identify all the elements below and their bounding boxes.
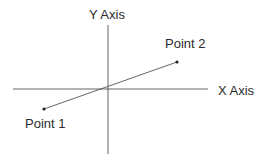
- y-axis-label: Y Axis: [89, 7, 125, 22]
- point-1-marker: [42, 107, 45, 110]
- x-axis-label: X Axis: [218, 83, 255, 98]
- coordinate-diagram: Y Axis X Axis Point 2 Point 1: [0, 0, 264, 164]
- point-1-label: Point 1: [25, 116, 65, 131]
- line-segment: [44, 62, 177, 109]
- point-2-label: Point 2: [165, 36, 205, 51]
- point-2-marker: [175, 60, 178, 63]
